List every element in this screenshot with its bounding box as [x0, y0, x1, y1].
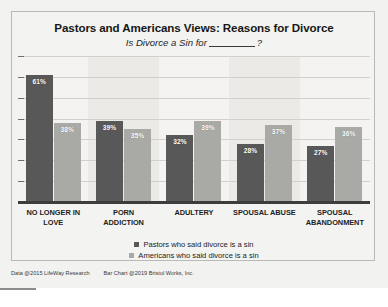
bar-group: 39%35% — [88, 56, 158, 202]
subtitle-suffix: ? — [257, 37, 262, 48]
legend-swatch-pastors — [134, 242, 139, 247]
bar-americans[interactable]: 38% — [54, 123, 81, 202]
chart-frame: Pastors and Americans Views: Reasons for… — [11, 11, 375, 261]
bottom-rule — [0, 288, 36, 290]
bar-group: 28%37% — [229, 56, 299, 202]
bar-americans[interactable]: 37% — [265, 125, 292, 202]
chart-title: Pastors and Americans Views: Reasons for… — [12, 21, 376, 34]
bar-value-label: 61% — [32, 78, 46, 85]
bar-value-label: 36% — [342, 130, 356, 137]
bar-value-label: 32% — [173, 138, 187, 145]
bar-group: 32%39% — [159, 56, 229, 202]
bar-value-label: 38% — [60, 126, 74, 133]
footer-data-credit: Data @2015 LifeWay Research — [11, 270, 90, 276]
chart-footer: Data @2015 LifeWay Research Bar Chart @2… — [11, 266, 375, 280]
bar-series-container: 61%38%39%35%32%39%28%37%27%36% — [18, 56, 370, 202]
bar-value-label: 27% — [314, 149, 328, 156]
bar-pastors[interactable]: 32% — [166, 135, 193, 202]
subtitle-blank-underline — [209, 37, 255, 47]
bar-value-label: 39% — [103, 124, 117, 131]
bar-value-label: 28% — [244, 147, 258, 154]
bar-americans[interactable]: 35% — [124, 129, 151, 202]
bar-value-label: 39% — [201, 124, 215, 131]
category-label: SPOUSAL ABUSE — [229, 208, 299, 218]
chart-legend: Pastors who said divorce is a sin Americ… — [12, 240, 376, 260]
category-label: NO LONGER INLOVE — [18, 208, 88, 227]
legend-swatch-americans — [129, 253, 134, 258]
bar-pastors[interactable]: 39% — [96, 121, 123, 202]
subtitle-prefix: Is Divorce a Sin for — [126, 37, 207, 48]
bar-group: 61%38% — [18, 56, 88, 202]
bar-pastors[interactable]: 28% — [237, 144, 264, 202]
bar-value-label: 35% — [131, 132, 145, 139]
bar-pastors[interactable]: 61% — [26, 75, 53, 202]
bottom-white-strip — [0, 288, 388, 307]
bar-americans[interactable]: 36% — [335, 127, 362, 202]
category-label: SPOUSALABANDONMENT — [300, 208, 370, 227]
bar-group: 27%36% — [300, 56, 370, 202]
footer-chart-credit: Bar Chart @2019 Bristol Works, Inc. — [104, 270, 194, 276]
legend-item-pastors: Pastors who said divorce is a sin — [134, 240, 253, 249]
legend-label-americans: Americans who said divorce is a sin — [138, 251, 258, 260]
legend-label-pastors: Pastors who said divorce is a sin — [143, 240, 253, 249]
bar-value-label: 37% — [272, 128, 286, 135]
bar-pastors[interactable]: 27% — [307, 146, 334, 202]
category-axis-labels: NO LONGER INLOVEPORNADDICTIONADULTERYSPO… — [18, 208, 370, 236]
legend-item-americans: Americans who said divorce is a sin — [129, 251, 258, 260]
category-label: PORNADDICTION — [88, 208, 158, 227]
chart-subtitle: Is Divorce a Sin for? — [12, 37, 376, 48]
category-label: ADULTERY — [159, 208, 229, 218]
x-axis-line — [18, 201, 370, 204]
bar-americans[interactable]: 39% — [194, 121, 221, 202]
slide-canvas: Pastors and Americans Views: Reasons for… — [0, 0, 388, 307]
